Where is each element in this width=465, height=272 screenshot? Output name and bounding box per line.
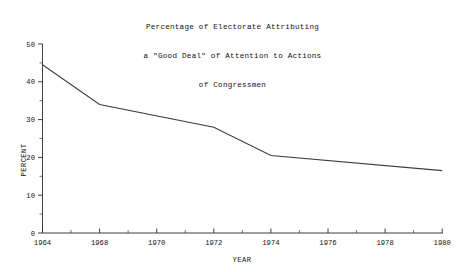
x-tick-label-1974: 1974: [262, 239, 279, 247]
y-tick-label-0: 0: [31, 230, 35, 238]
chart-title-line-3: of Congressmen: [0, 81, 465, 91]
y-tick-label-10: 10: [26, 192, 35, 200]
y-tick-label-30: 30: [26, 116, 35, 124]
x-axis-tick-labels: 1964 1968 1970 1972 1974 1976 1978 1980: [34, 239, 451, 247]
x-tick-label-1968: 1968: [91, 239, 108, 247]
x-tick-label-1978: 1978: [376, 239, 393, 247]
x-tick-label-1980: 1980: [434, 239, 451, 247]
chart-title-line-2: a "Good Deal" of Attention to Actions: [0, 52, 465, 62]
x-tick-label-1970: 1970: [148, 239, 165, 247]
x-tick-label-1976: 1976: [319, 239, 336, 247]
chart-title-line-1: Percentage of Electorate Attributing: [0, 23, 465, 33]
x-tick-label-1972: 1972: [205, 239, 222, 247]
x-tick-label-1964: 1964: [34, 239, 51, 247]
chart-figure: Percentage of Electorate Attributing a "…: [0, 0, 465, 272]
chart-title: Percentage of Electorate Attributing a "…: [0, 4, 465, 110]
x-axis-title: YEAR: [233, 256, 252, 264]
y-axis-title: PERCENT: [20, 143, 28, 176]
x-axis-ticks: [43, 229, 443, 234]
